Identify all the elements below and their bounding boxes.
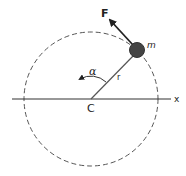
- circular-motion-diagram: F m α r C x: [0, 0, 186, 176]
- mass-ball: [130, 43, 145, 58]
- axis-label: x: [174, 94, 180, 104]
- mass-label: m: [147, 40, 156, 50]
- force-arrow: [110, 20, 133, 45]
- angle-label: α: [89, 65, 97, 78]
- radius-line: [91, 54, 135, 99]
- center-label: C: [87, 102, 95, 115]
- radius-label: r: [117, 73, 121, 82]
- force-label: F: [101, 7, 109, 20]
